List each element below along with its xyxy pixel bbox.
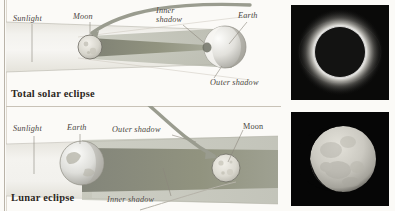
label-outer-shadow-lunar: Outer shadow bbox=[112, 125, 161, 134]
label-earth-solar: Earth bbox=[238, 11, 258, 20]
label-inner-shadow-solar: Inner shadow bbox=[156, 6, 182, 24]
umbra-contact-spot bbox=[203, 43, 212, 53]
label-moon-lunar: Moon bbox=[243, 122, 263, 131]
total-solar-eclipse-image bbox=[291, 5, 389, 100]
panel-total-solar-eclipse: Sunlight Moon Inner shadow Earth Outer s… bbox=[0, 0, 282, 106]
panel-lunar-eclipse: Sunlight Earth Outer shadow Inner shadow… bbox=[0, 106, 282, 211]
label-inner-shadow-lunar: Inner shadow bbox=[107, 195, 154, 204]
moon-body-solar bbox=[78, 35, 102, 59]
caption-total-solar-eclipse: Total solar eclipse bbox=[11, 88, 95, 99]
moon-body-lunar bbox=[212, 154, 240, 182]
partial-lunar-eclipse-image bbox=[291, 112, 389, 206]
label-earth-lunar: Earth bbox=[67, 123, 87, 132]
label-sunlight-lunar: Sunlight bbox=[13, 124, 42, 133]
photo-partial-lunar-eclipse bbox=[291, 112, 389, 206]
label-sunlight-solar: Sunlight bbox=[13, 14, 42, 23]
figure-root: Sunlight Moon Inner shadow Earth Outer s… bbox=[0, 0, 395, 211]
photo-total-solar-eclipse bbox=[291, 5, 389, 100]
inner-shadow-band-lunar bbox=[82, 148, 278, 192]
caption-lunar-eclipse: Lunar eclipse bbox=[11, 192, 74, 203]
label-moon-solar: Moon bbox=[73, 12, 93, 21]
label-outer-shadow-solar: Outer shadow bbox=[210, 78, 259, 87]
